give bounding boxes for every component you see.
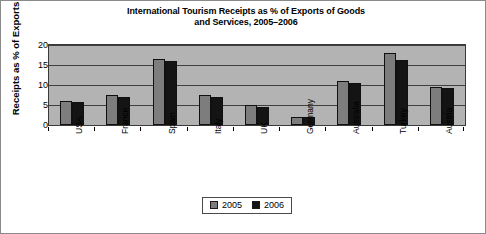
x-tick-mark xyxy=(94,127,95,131)
x-tick-mark xyxy=(187,127,188,131)
y-tick-label: 10 xyxy=(26,80,48,90)
x-tick-mark xyxy=(372,127,373,131)
legend-swatch-icon-2005 xyxy=(210,201,218,209)
bar-australia-2005 xyxy=(337,81,349,125)
bar-austria-2005 xyxy=(430,87,442,125)
x-category-label-austria: Austria xyxy=(444,108,454,134)
x-category-label-spain: Spain xyxy=(167,112,177,134)
bar-turkey-2005 xyxy=(384,53,396,125)
chart-title-line-1: International Tourism Receipts as % of E… xyxy=(61,6,431,17)
legend-item-2005: 2005 xyxy=(210,200,242,210)
x-tick-mark xyxy=(233,127,234,131)
x-axis-category-labels: USAFranceSpainItalyUKGermanyAustraliaTur… xyxy=(48,134,466,189)
x-tick-mark xyxy=(463,127,464,131)
chart-legend: 20052006 xyxy=(202,197,292,214)
chart-container: International Tourism Receipts as % of E… xyxy=(0,0,486,234)
y-axis: 05101520 xyxy=(1,44,48,127)
bar-germany-2005 xyxy=(291,117,303,125)
x-category-label-italy: Italy xyxy=(213,118,223,134)
legend-label: 2005 xyxy=(222,200,242,210)
x-tick-mark xyxy=(418,127,419,131)
x-tick-mark xyxy=(140,127,141,131)
x-category-label-france: France xyxy=(120,108,130,134)
x-tick-mark xyxy=(279,127,280,131)
bar-uk-2005 xyxy=(245,105,257,125)
x-category-label-turkey: Turkey xyxy=(398,108,408,134)
x-tick-mark xyxy=(48,127,49,131)
bar-spain-2005 xyxy=(153,59,165,125)
bar-usa-2005 xyxy=(60,101,72,125)
x-category-label-germany: Germany xyxy=(305,99,315,134)
x-tick-mark xyxy=(325,127,326,131)
x-category-label-australia: Australia xyxy=(351,101,361,134)
bar-italy-2005 xyxy=(199,95,211,125)
legend-swatch-icon-2006 xyxy=(252,201,260,209)
x-category-label-uk: UK xyxy=(259,122,269,134)
bar-france-2005 xyxy=(106,95,118,125)
legend-item-2006: 2006 xyxy=(252,200,284,210)
gridline xyxy=(49,45,465,46)
y-tick-label: 15 xyxy=(26,60,48,70)
x-category-label-usa: USA xyxy=(74,117,84,134)
legend-label: 2006 xyxy=(264,200,284,210)
y-tick-label: 20 xyxy=(26,40,48,50)
chart-title: International Tourism Receipts as % of E… xyxy=(61,6,431,28)
chart-title-line-2: and Services, 2005–2006 xyxy=(61,17,431,28)
y-tick-label: 0 xyxy=(26,120,48,130)
y-tick-label: 5 xyxy=(26,100,48,110)
